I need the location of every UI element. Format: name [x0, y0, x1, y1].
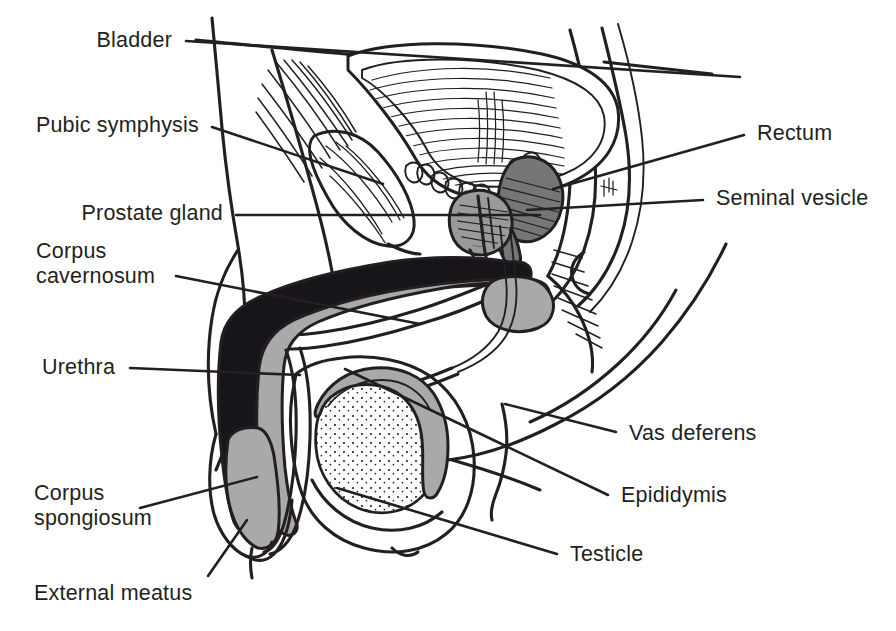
label-corpus-cavernosum: Corpus cavernosum: [36, 239, 155, 288]
label-bladder: Bladder: [96, 28, 172, 52]
anatomy-diagram: Bladder Pubic symphysis Prostate gland C…: [0, 0, 896, 631]
perineal-body-outline: [548, 276, 593, 372]
glans-spongiosum: [226, 428, 279, 549]
anatomy-illustration: Bladder Pubic symphysis Prostate gland C…: [0, 0, 896, 631]
rectal-mucosa-marks: [601, 178, 617, 196]
label-rectum: Rectum: [757, 121, 832, 145]
label-vas-deferens: Vas deferens: [629, 421, 757, 445]
vas-deferens-tail: [491, 404, 507, 520]
leader-external-meatus: [208, 520, 247, 576]
label-seminal-vesicle: Seminal vesicle: [716, 186, 868, 210]
label-prostate-gland: Prostate gland: [82, 201, 223, 225]
label-urethra: Urethra: [42, 355, 115, 379]
label-external-meatus: External meatus: [34, 581, 192, 605]
label-corpus-cavernosum-line1: Corpus: [36, 239, 107, 263]
label-testicle: Testicle: [570, 542, 643, 566]
label-corpus-spongiosum-line2: spongiosum: [34, 506, 152, 530]
label-corpus-spongiosum-line1: Corpus: [34, 481, 105, 505]
external-meatus-slit: [251, 548, 253, 578]
label-epididymis: Epididymis: [621, 483, 727, 507]
scrotal-skin-right: [452, 460, 540, 490]
leader-testicle: [337, 488, 557, 554]
label-corpus-cavernosum-line2: cavernosum: [36, 264, 155, 288]
label-pubic-symphysis: Pubic symphysis: [36, 113, 199, 137]
corpus-spongiosum-bulb: [482, 277, 553, 332]
pubic-symphysis-body: [310, 131, 415, 246]
pubic-bone-undersurface: [388, 244, 420, 254]
label-corpus-spongiosum: Corpus spongiosum: [34, 481, 152, 530]
